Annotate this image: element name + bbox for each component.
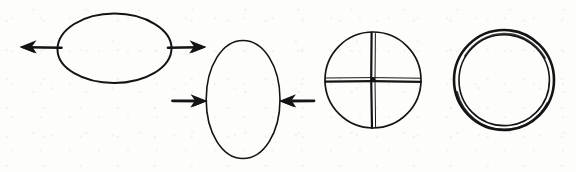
figure-canvas	[0, 0, 576, 172]
figure-vertical-ellipse-with-inward-arrows	[173, 41, 315, 159]
vertical-ellipse-outline	[206, 41, 280, 159]
figure-double-ring-circle	[454, 30, 554, 130]
horizontal-ellipse-outline	[58, 14, 172, 84]
cross-center-dot	[371, 78, 376, 83]
figure-circle-with-cross	[325, 32, 421, 128]
ring-inner-contour	[459, 35, 549, 126]
diagram-page	[0, 0, 576, 172]
figure-horizontal-ellipse-with-outward-arrows	[20, 14, 207, 84]
